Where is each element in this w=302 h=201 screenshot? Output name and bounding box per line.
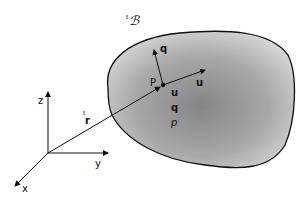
point-label: P	[150, 77, 156, 88]
x-axis-label: x	[22, 183, 28, 194]
body-label: ℬ	[129, 13, 140, 28]
z-axis-label: z	[38, 95, 43, 106]
point-p-dot	[161, 83, 165, 87]
field-u-label: u	[171, 87, 178, 98]
diagram-svg: z y x t r t ℬ P q u u q p	[0, 0, 302, 201]
field-q-label: q	[171, 102, 178, 113]
q-vector-label: q	[160, 43, 167, 54]
diagram-canvas: z y x t r t ℬ P q u u q p	[0, 0, 302, 201]
position-vector-label: r	[85, 115, 90, 126]
body-region	[108, 31, 295, 167]
u-vector-label: u	[196, 77, 203, 88]
y-axis-label: y	[95, 158, 101, 169]
field-p-label: p	[170, 117, 177, 128]
x-axis	[15, 153, 48, 186]
